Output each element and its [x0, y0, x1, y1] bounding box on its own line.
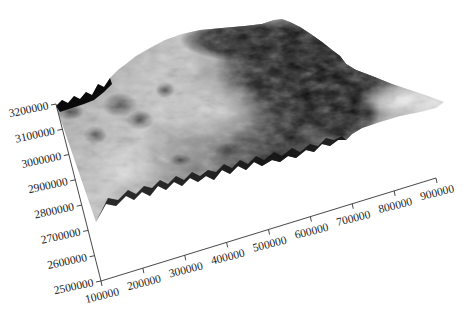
- x-tick-label: 400000: [209, 246, 246, 266]
- y-tick-label: 2800000: [33, 200, 75, 220]
- y-tick-label: 3100000: [14, 124, 56, 144]
- y-tick-label: 2600000: [46, 251, 88, 271]
- y-tick-label: 2900000: [27, 175, 69, 195]
- x-tick-label: 600000: [293, 221, 330, 241]
- x-axis: 1000002000003000004000005000006000007000…: [84, 178, 456, 305]
- x-tick-label: 900000: [419, 182, 456, 202]
- y-tick-label: 3000000: [20, 150, 62, 170]
- surface-plot: 2500000260000027000002800000290000030000…: [0, 0, 470, 316]
- x-tick-label: 200000: [126, 272, 163, 292]
- x-tick-label: 800000: [377, 195, 414, 215]
- y-tick-label: 2700000: [40, 226, 82, 246]
- terrain-surface: [50, 15, 450, 225]
- y-tick-label: 3200000: [8, 99, 50, 119]
- x-tick-label: 500000: [251, 234, 288, 254]
- x-tick-label: 300000: [168, 259, 205, 279]
- x-tick-label: 700000: [335, 208, 372, 228]
